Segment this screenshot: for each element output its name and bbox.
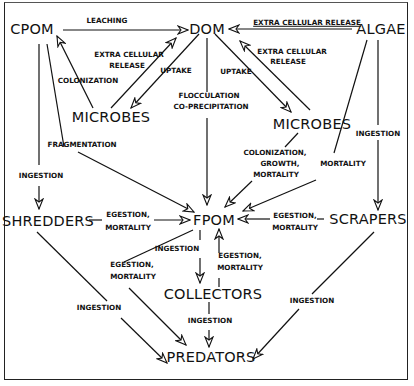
node-microbes-left: MICROBES bbox=[72, 110, 150, 125]
label-ingestion-scrapers-predators: INGESTION bbox=[290, 296, 334, 306]
label-colonization-growth-3: MORTALITY bbox=[253, 170, 299, 180]
label-ingestion-cpom-shredders: INGESTION bbox=[19, 171, 63, 181]
node-collectors: COLLECTORS bbox=[164, 287, 263, 302]
arrow-microbes-cpom bbox=[57, 36, 93, 108]
label-extra-cellular-left-1: EXTRA CELLULAR bbox=[94, 50, 164, 60]
label-uptake-right: UPTAKE bbox=[220, 67, 252, 77]
label-uptake-left: UPTAKE bbox=[160, 66, 192, 76]
label-extra-cellular-right-1: EXTRA CELLULAR bbox=[257, 47, 327, 57]
label-leaching: LEACHING bbox=[87, 16, 128, 26]
label-egestion-fpom-predators-1: EGESTION, bbox=[110, 260, 153, 270]
label-extra-cellular-release-top: EXTRA CELLULAR RELEASE bbox=[253, 18, 361, 28]
flow-arrows bbox=[0, 0, 414, 386]
label-colonization-growth-2: GROWTH, bbox=[260, 159, 299, 169]
label-flocculation: FLOCCULATION bbox=[178, 91, 239, 101]
arrow-scrapers-predators bbox=[253, 309, 299, 359]
label-egestion-collectors-1: EGESTION, bbox=[218, 251, 261, 261]
label-egestion-collectors-2: MORTALITY bbox=[217, 263, 263, 273]
label-ingestion-collectors-predators: INGESTION bbox=[188, 316, 232, 326]
label-egestion-scrapers-1: EGESTION, bbox=[273, 211, 316, 221]
label-extra-cellular-right-2: RELEASE bbox=[270, 57, 306, 67]
label-ingestion-fpom-collectors: INGESTION bbox=[155, 244, 199, 254]
arrow-shredders-predators bbox=[121, 318, 167, 363]
label-co-precipitation: CO-PRECIPITATION bbox=[173, 102, 248, 112]
label-egestion-shredders-2: MORTALITY bbox=[105, 223, 151, 233]
node-predators: PREDATORS bbox=[166, 350, 255, 365]
node-microbes-right: MICROBES bbox=[273, 117, 351, 132]
node-algae: ALGAE bbox=[356, 22, 405, 37]
node-fpom: FPOM bbox=[193, 213, 235, 228]
label-extra-cellular-left-2: RELEASE bbox=[109, 61, 145, 71]
arrow-cpom-fpom bbox=[78, 152, 194, 212]
label-egestion-fpom-predators-2: MORTALITY bbox=[110, 272, 156, 282]
label-egestion-shredders-1: EGESTION, bbox=[106, 210, 149, 220]
node-shredders: SHREDDERS bbox=[2, 214, 94, 229]
label-colonization: COLONIZATION bbox=[58, 76, 118, 86]
label-colonization-growth-1: COLONIZATION, bbox=[243, 148, 306, 158]
label-fragmentation: FRAGMENTATION bbox=[47, 140, 116, 150]
label-egestion-scrapers-2: MORTALITY bbox=[272, 223, 318, 233]
label-mortality-algae: MORTALITY bbox=[320, 159, 366, 169]
arrow-algae-fpom bbox=[243, 180, 316, 211]
node-cpom: CPOM bbox=[10, 22, 54, 37]
node-scrapers: SCRAPERS bbox=[329, 212, 407, 227]
label-ingestion-shredders-predators: INGESTION bbox=[77, 303, 121, 313]
node-dom: DOM bbox=[189, 22, 225, 37]
arrow-microbes-right-fpom bbox=[225, 181, 252, 207]
label-ingestion-algae-scrapers: INGESTION bbox=[356, 129, 400, 139]
